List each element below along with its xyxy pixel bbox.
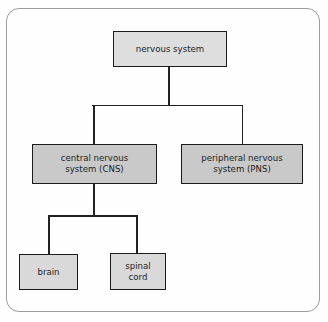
- node-peripheral-nervous-system-label: peripheral nervous system (PNS): [201, 153, 282, 174]
- connector-root-to-cns: [93, 105, 95, 145]
- node-brain-label: brain: [37, 267, 59, 278]
- node-peripheral-nervous-system: peripheral nervous system (PNS): [181, 144, 303, 184]
- node-central-nervous-system: central nervous system (CNS): [32, 144, 157, 184]
- node-spinal-cord-label: spinal cord: [125, 261, 150, 282]
- connector-cns-to-spinal-cord: [136, 215, 138, 253]
- node-nervous-system-label: nervous system: [136, 44, 204, 55]
- connector-cns-branch-bar: [48, 215, 138, 217]
- node-spinal-cord: spinal cord: [110, 253, 166, 290]
- node-brain: brain: [19, 254, 78, 290]
- connector-cns-to-brain: [48, 215, 50, 254]
- node-nervous-system: nervous system: [113, 31, 227, 67]
- connector-root-to-pns: [242, 105, 244, 145]
- diagram-canvas: nervous system central nervous system (C…: [0, 0, 328, 322]
- connector-cns-stem: [93, 184, 95, 216]
- connector-root-branch-bar: [92, 105, 243, 107]
- node-central-nervous-system-label: central nervous system (CNS): [61, 153, 128, 174]
- connector-root-stem: [168, 67, 170, 106]
